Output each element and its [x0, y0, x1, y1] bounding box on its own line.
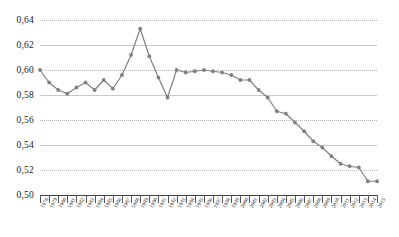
data-point — [157, 76, 161, 80]
data-point — [184, 71, 188, 75]
data-point — [284, 112, 288, 116]
data-point — [120, 73, 124, 77]
data-point — [229, 73, 233, 77]
series-markers — [38, 27, 379, 183]
data-point — [47, 81, 51, 85]
data-point — [147, 54, 151, 58]
data-point — [93, 88, 97, 92]
line-chart: 0,640,620,600,580,560,540,520,50 1978197… — [0, 0, 399, 237]
data-point — [311, 139, 315, 143]
data-point — [330, 154, 334, 158]
data-point — [202, 68, 206, 72]
data-point — [111, 87, 115, 91]
data-point — [175, 68, 179, 72]
data-point — [102, 78, 106, 82]
data-point — [238, 78, 242, 82]
data-point — [293, 121, 297, 125]
data-point — [220, 71, 224, 75]
data-point — [366, 179, 370, 183]
data-point — [302, 129, 306, 133]
data-point — [257, 88, 261, 92]
data-point — [211, 69, 215, 73]
data-point — [84, 81, 88, 85]
series-line — [40, 29, 377, 182]
data-point — [339, 162, 343, 166]
data-series — [0, 0, 399, 237]
data-point — [56, 88, 60, 92]
data-point — [275, 109, 279, 113]
data-point — [75, 86, 79, 90]
data-point — [320, 146, 324, 150]
data-point — [166, 96, 170, 100]
data-point — [38, 68, 42, 72]
data-point — [193, 69, 197, 73]
data-point — [129, 53, 133, 57]
data-point — [138, 27, 142, 31]
data-point — [375, 179, 379, 183]
data-point — [348, 164, 352, 168]
data-point — [357, 166, 361, 170]
data-point — [65, 92, 69, 96]
data-point — [248, 78, 252, 82]
data-point — [266, 96, 270, 100]
